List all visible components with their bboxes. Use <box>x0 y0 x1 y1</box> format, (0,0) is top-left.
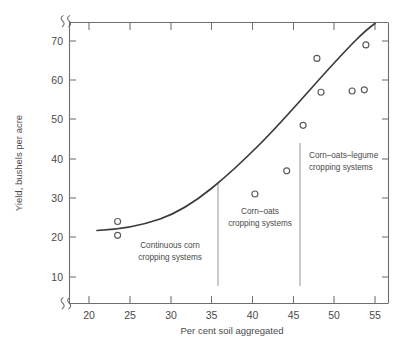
annotation-continuous-corn-line2: cropping systems <box>138 253 202 262</box>
y-tick-label-50: 50 <box>51 113 63 125</box>
y-tick-label-20: 20 <box>51 231 63 243</box>
y-tick-label-40: 40 <box>51 153 63 165</box>
annotation-corn-oats-legume-line2: cropping systems <box>309 163 373 172</box>
x-tick-label-20: 20 <box>83 309 95 321</box>
x-tick-label-55: 55 <box>369 309 381 321</box>
y-axis-title: Yield, bushels per acre <box>13 115 24 211</box>
x-tick-label-35: 35 <box>206 309 218 321</box>
x-axis-title: Per cent soil aggregated <box>181 325 284 336</box>
x-tick-label-30: 30 <box>165 309 177 321</box>
x-tick-label-25: 25 <box>124 309 136 321</box>
x-tick-label-45: 45 <box>288 309 300 321</box>
annotation-corn-oats-line2: cropping systems <box>228 219 292 228</box>
annotation-corn-oats-legume-line1: Corn–oats–legume <box>309 151 379 160</box>
y-tick-label-30: 30 <box>51 192 63 204</box>
y-tick-label-10: 10 <box>51 271 63 283</box>
scatter-chart-svg: 70 60 50 40 30 20 10 <box>0 0 404 348</box>
y-tick-label-70: 70 <box>51 35 63 47</box>
x-tick-label-40: 40 <box>247 309 259 321</box>
x-tick-label-50: 50 <box>328 309 340 321</box>
annotation-continuous-corn-line1: Continuous corn <box>140 241 200 250</box>
y-tick-label-60: 60 <box>51 74 63 86</box>
annotation-corn-oats-line1: Corn–oats <box>241 207 279 216</box>
chart-figure: 70 60 50 40 30 20 10 <box>0 0 404 348</box>
